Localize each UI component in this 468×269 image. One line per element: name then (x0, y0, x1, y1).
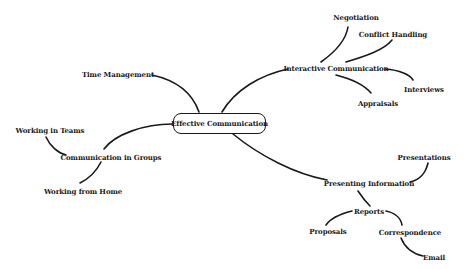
node-email[interactable]: Email (423, 253, 445, 262)
link-interactive-interviews (385, 69, 413, 80)
node-conflict-handling[interactable]: Conflict Handling (359, 30, 427, 39)
link-reports-correspondence (386, 211, 402, 225)
link-root-communication-in-groups (104, 124, 172, 149)
node-presenting-information[interactable]: Presenting Information (324, 179, 414, 188)
node-interactive-communication[interactable]: Interactive Communication (283, 64, 388, 73)
node-interviews[interactable]: Interviews (404, 85, 444, 94)
node-correspondence[interactable]: Correspondence (379, 228, 441, 237)
link-root-time-management (152, 75, 199, 112)
node-proposals[interactable]: Proposals (309, 227, 346, 236)
link-correspondence-email (401, 238, 423, 256)
link-interactive-negotiation (321, 27, 348, 62)
link-presenting-reports (358, 191, 370, 206)
link-interactive-conflict-handling (346, 40, 392, 62)
link-root-presenting-information (233, 134, 327, 180)
node-presentations[interactable]: Presentations (398, 153, 451, 162)
link-root-interactive-communication (222, 69, 288, 112)
link-reports-proposals (326, 211, 352, 225)
link-interactive-appraisals (336, 75, 371, 93)
node-working-from-home[interactable]: Working from Home (44, 187, 122, 196)
root-node-effective-communication[interactable]: Effective Communication (173, 113, 266, 134)
mind-map-canvas: Effective Communication Time Management … (0, 0, 468, 269)
node-appraisals[interactable]: Appraisals (358, 99, 398, 108)
node-communication-in-groups[interactable]: Communication in Groups (61, 153, 162, 162)
link-groups-working-from-home (80, 162, 101, 183)
node-working-in-teams[interactable]: Working in Teams (16, 126, 85, 135)
node-time-management[interactable]: Time Management (82, 70, 154, 79)
root-node-label: Effective Communication (171, 119, 268, 128)
node-reports[interactable]: Reports (354, 207, 384, 216)
node-negotiation[interactable]: Negotiation (333, 13, 378, 22)
